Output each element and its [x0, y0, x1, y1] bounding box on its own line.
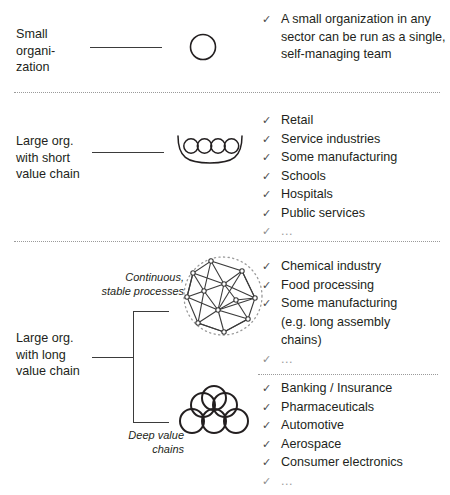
list-item: ✓ Some manufacturing	[262, 295, 448, 313]
list-item-label: A small organization in any sector can b…	[281, 11, 448, 64]
check-icon: ✓	[262, 277, 281, 295]
network-mesh-icon	[180, 253, 266, 339]
connector-line-small-organization	[90, 47, 162, 48]
check-icon: ✓	[262, 11, 281, 29]
list-item-label: Public services	[281, 205, 448, 223]
bracket-spine	[133, 311, 134, 423]
list-item: ✓ Consumer electronics	[262, 454, 448, 472]
list-item-label: ...	[281, 351, 448, 369]
bullet-list-deep-value-chains: ✓ Banking / Insurance ✓ Pharmaceuticals …	[262, 380, 448, 491]
list-item-label: Automotive	[281, 417, 448, 435]
check-icon: ✓	[262, 380, 281, 398]
check-icon: ✓	[262, 131, 281, 149]
list-item-label: Retail	[281, 112, 448, 130]
circle-pyramid-icon	[178, 384, 250, 436]
bullet-list-continuous-stable-processes: ✓ Chemical industry ✓ Food processing ✓ …	[262, 258, 448, 369]
list-item: ✓ Schools	[262, 168, 448, 186]
list-item: ✓ Public services	[262, 205, 448, 223]
list-item-label: chains)	[281, 332, 448, 350]
list-item-label: Aerospace	[281, 436, 448, 454]
annotation-deep-value-chains: Deep value chains	[84, 428, 184, 456]
list-item: ✓ Food processing	[262, 277, 448, 295]
check-icon: ✓	[262, 351, 281, 369]
bracket-arm-top	[133, 311, 169, 312]
list-item-continuation: (e.g. long assembly	[262, 314, 448, 332]
list-item-label: (e.g. long assembly	[281, 314, 448, 332]
list-item: ✓ Service industries	[262, 131, 448, 149]
check-icon: ✓	[262, 295, 281, 313]
list-item: ✓ Aerospace	[262, 436, 448, 454]
list-item-label: Service industries	[281, 131, 448, 149]
check-icon: ✓	[262, 223, 281, 241]
list-item: ✓ Pharmaceuticals	[262, 399, 448, 417]
list-item: ✓ ...	[262, 473, 448, 491]
single-circle-icon	[186, 30, 220, 64]
list-item-label: ...	[281, 223, 448, 241]
annotation-continuous-stable-processes: Continuous, stable processes	[84, 270, 184, 298]
four-circles-basket-icon	[173, 131, 247, 167]
list-item-label: Consumer electronics	[281, 454, 448, 472]
list-item: ✓ ...	[262, 223, 448, 241]
fork-bracket	[133, 311, 169, 423]
check-icon: ✓	[262, 112, 281, 130]
row-label-large-org-short-value-chain: Large org. with short value chain	[16, 133, 108, 183]
connector-line-short-value-chain	[92, 152, 164, 153]
list-item: ✓ Automotive	[262, 417, 448, 435]
check-icon: ✓	[262, 417, 281, 435]
bracket-arm-bottom	[133, 422, 169, 423]
list-item: ✓ Banking / Insurance	[262, 380, 448, 398]
section-divider-3	[258, 374, 438, 375]
list-item-label: Some manufacturing	[281, 295, 448, 313]
list-item-label: Food processing	[281, 277, 448, 295]
list-item-label: Chemical industry	[281, 258, 448, 276]
check-icon: ✓	[262, 436, 281, 454]
check-icon: ✓	[262, 399, 281, 417]
list-item-label: Hospitals	[281, 186, 448, 204]
list-item: ✓ Some manufacturing	[262, 149, 448, 167]
list-item: ✓ Chemical industry	[262, 258, 448, 276]
check-icon: ✓	[262, 186, 281, 204]
list-item-label: Banking / Insurance	[281, 380, 448, 398]
list-item-label: Schools	[281, 168, 448, 186]
list-item-continuation: chains)	[262, 332, 448, 350]
check-icon: ✓	[262, 149, 281, 167]
list-item: ✓ Hospitals	[262, 186, 448, 204]
row-label-large-org-long-value-chain: Large org. with long value chain	[16, 330, 108, 380]
list-item: ✓ Retail	[262, 112, 448, 130]
list-item-label: Some manufacturing	[281, 149, 448, 167]
bullet-list-short-value-chain: ✓ Retail ✓ Service industries ✓ Some man…	[262, 112, 448, 242]
bullet-list-small-organization: ✓ A small organization in any sector can…	[262, 11, 448, 65]
row-label-small-organization: Small organi- zation	[16, 26, 96, 76]
list-item-label: Pharmaceuticals	[281, 399, 448, 417]
check-icon: ✓	[262, 168, 281, 186]
connector-line-long-value-chain	[92, 357, 134, 358]
section-divider-1	[14, 92, 440, 93]
check-icon: ✓	[262, 258, 281, 276]
organization-value-chain-diagram: Small organi- zation ✓ A small organizat…	[0, 0, 450, 495]
list-item: ✓ ...	[262, 351, 448, 369]
list-item: ✓ A small organization in any sector can…	[262, 11, 448, 64]
check-icon: ✓	[262, 473, 281, 491]
list-item-label: ...	[281, 473, 448, 491]
check-icon: ✓	[262, 205, 281, 223]
check-icon: ✓	[262, 454, 281, 472]
